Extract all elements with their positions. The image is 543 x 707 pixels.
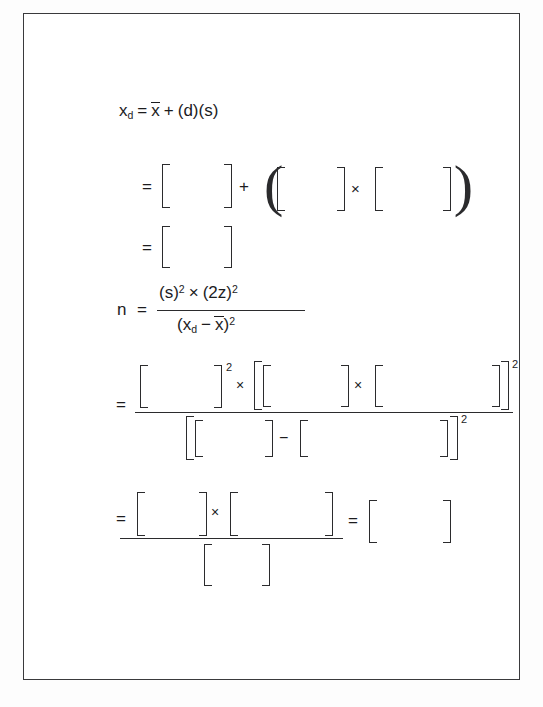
answer-blank-bracket[interactable] bbox=[137, 492, 207, 536]
answer-blank-bracket[interactable] bbox=[204, 544, 270, 586]
answer-blank-bracket[interactable] bbox=[300, 420, 448, 457]
page-border: xd=x+(d)(s) = + ( ) × = n = (s)2×(2z)2 bbox=[23, 13, 520, 680]
equals-sign: = bbox=[116, 396, 126, 413]
multiplication-sign: × bbox=[185, 283, 203, 302]
answer-blank-bracket[interactable] bbox=[195, 420, 273, 457]
variable-x: x bbox=[119, 101, 128, 120]
minus-sign: − bbox=[197, 315, 215, 334]
answer-blank-bracket[interactable] bbox=[140, 365, 222, 408]
z-exponent: 2 bbox=[232, 283, 238, 295]
variable-x: x bbox=[183, 315, 192, 334]
equals-sign: = bbox=[116, 510, 126, 527]
formula-line-xd-definition: xd=x+(d)(s) bbox=[119, 101, 218, 120]
fraction-denominator: (xd−x)2 bbox=[177, 315, 235, 334]
exponent-two: 2 bbox=[512, 359, 518, 370]
fraction-bar bbox=[135, 412, 513, 413]
final-answer-blank-bracket[interactable] bbox=[369, 500, 451, 543]
multiplication-sign: × bbox=[211, 505, 219, 519]
answer-blank-bracket[interactable] bbox=[277, 167, 345, 211]
multiplication-sign: × bbox=[351, 181, 360, 196]
exponent-two: 2 bbox=[461, 414, 467, 425]
exponent-two: 2 bbox=[229, 315, 235, 327]
worksheet-page: xd=x+(d)(s) = + ( ) × = n = (s)2×(2z)2 bbox=[0, 0, 543, 707]
s-base: (s) bbox=[159, 283, 179, 302]
z-base: (2z) bbox=[203, 283, 232, 302]
minus-sign: − bbox=[279, 430, 288, 446]
x-bar-symbol: x bbox=[215, 315, 224, 333]
answer-blank-bracket[interactable] bbox=[230, 492, 333, 536]
equals-sign: = bbox=[142, 178, 152, 195]
s-exponent: 2 bbox=[179, 283, 185, 295]
answer-blank-bracket[interactable] bbox=[375, 365, 500, 407]
answer-blank-bracket[interactable] bbox=[263, 365, 349, 407]
equals-sign: = bbox=[137, 301, 147, 318]
multiplication-sign: × bbox=[236, 378, 244, 392]
equals-sign: = bbox=[142, 239, 152, 256]
plus-sign: + bbox=[239, 178, 249, 195]
d-times-s-term: (d)(s) bbox=[178, 101, 219, 120]
plus-sign: + bbox=[160, 101, 178, 120]
x-bar-symbol: x bbox=[151, 101, 160, 119]
fraction-bar bbox=[157, 310, 305, 311]
equals-sign: = bbox=[133, 101, 151, 120]
variable-n: n bbox=[117, 301, 126, 318]
answer-blank-bracket[interactable] bbox=[162, 226, 232, 268]
multiplication-sign: × bbox=[354, 378, 362, 392]
equals-sign: = bbox=[348, 512, 358, 529]
exponent-two: 2 bbox=[226, 362, 232, 373]
fraction-bar bbox=[120, 538, 343, 539]
answer-blank-bracket[interactable] bbox=[375, 167, 451, 211]
fraction-numerator: (s)2×(2z)2 bbox=[159, 284, 238, 301]
answer-blank-bracket[interactable] bbox=[162, 164, 232, 208]
